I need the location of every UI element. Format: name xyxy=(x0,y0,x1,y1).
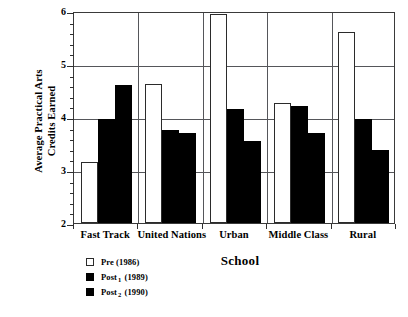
bar-post2-group-4 xyxy=(372,150,389,223)
y-tick-minor xyxy=(70,130,74,131)
y-tick-major-6 xyxy=(67,13,74,14)
y-tick-minor xyxy=(70,204,74,205)
y-tick-minor xyxy=(70,34,74,35)
y-tick-label-5: 5 xyxy=(50,60,66,70)
y-tick-major-4 xyxy=(67,119,74,120)
x-category-label-3: Middle Class xyxy=(266,229,330,241)
x-tick-5 xyxy=(395,224,396,229)
bar-post2-group-1 xyxy=(179,133,196,223)
bar-pre-group-4 xyxy=(338,32,355,223)
y-tick-minor xyxy=(70,140,74,141)
group-separator-4 xyxy=(332,13,333,223)
legend-label-1: Post1 (1989) xyxy=(101,272,148,282)
legend-item-1[interactable]: Post1 (1989) xyxy=(86,269,148,284)
x-axis-title: School xyxy=(180,253,300,269)
bar-pre-group-2 xyxy=(210,14,227,223)
x-category-label-0: Fast Track xyxy=(73,229,137,241)
y-tick-minor xyxy=(70,24,74,25)
bar-post1-group-4 xyxy=(355,119,372,223)
legend-swatch-icon-0 xyxy=(86,258,94,266)
y-tick-minor xyxy=(70,77,74,78)
bar-post2-group-2 xyxy=(244,141,261,223)
y-tick-label-2: 2 xyxy=(50,219,66,229)
y-tick-minor xyxy=(70,214,74,215)
bar-post1-group-2 xyxy=(227,109,244,223)
y-tick-label-4: 4 xyxy=(50,113,66,123)
bar-pre-group-1 xyxy=(145,84,162,223)
bar-post1-group-1 xyxy=(162,130,179,223)
y-tick-minor xyxy=(70,55,74,56)
y-tick-minor xyxy=(70,161,74,162)
legend-swatch-icon-1 xyxy=(86,273,94,281)
bar-post1-group-0 xyxy=(98,119,115,223)
legend-label-0: Pre (1986) xyxy=(101,257,139,267)
x-category-label-2: Urban xyxy=(202,229,266,241)
legend-item-0[interactable]: Pre (1986) xyxy=(86,254,148,269)
bar-post2-group-0 xyxy=(115,85,132,223)
y-tick-major-3 xyxy=(67,172,74,173)
legend-swatch-icon-2 xyxy=(86,288,94,296)
y-tick-minor xyxy=(70,87,74,88)
group-separator-1 xyxy=(138,13,139,223)
group-separator-2 xyxy=(203,13,204,223)
y-axis-title-line-1: Average Practical Arts xyxy=(32,21,45,221)
bar-post2-group-3 xyxy=(308,133,325,223)
bar-pre-group-3 xyxy=(274,103,291,223)
bar-chart: Average Practical Arts Credits Earned 23… xyxy=(0,0,408,317)
y-tick-minor xyxy=(70,193,74,194)
x-category-label-4: Rural xyxy=(331,229,395,241)
y-tick-minor xyxy=(70,98,74,99)
y-tick-minor xyxy=(70,45,74,46)
legend: Pre (1986)Post1 (1989)Post2 (1990) xyxy=(86,254,148,299)
y-tick-minor xyxy=(70,108,74,109)
plot-area xyxy=(73,12,395,224)
bar-pre-group-0 xyxy=(81,162,98,223)
y-axis-tick-labels: 23456 xyxy=(50,0,66,317)
y-tick-label-3: 3 xyxy=(50,166,66,176)
y-tick-minor xyxy=(70,183,74,184)
legend-item-2[interactable]: Post2 (1990) xyxy=(86,284,148,299)
legend-label-2: Post2 (1990) xyxy=(101,287,148,297)
y-tick-minor xyxy=(70,151,74,152)
y-tick-label-6: 6 xyxy=(50,7,66,17)
bar-post1-group-3 xyxy=(291,106,308,223)
y-tick-major-5 xyxy=(67,66,74,67)
group-separator-3 xyxy=(267,13,268,223)
x-category-label-1: United Nations xyxy=(137,229,201,241)
